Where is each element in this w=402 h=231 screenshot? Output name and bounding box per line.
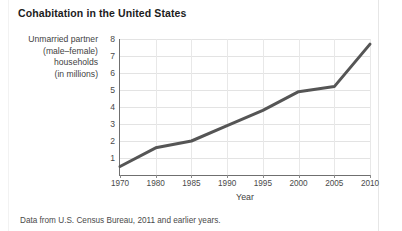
page-edge-left [8, 0, 9, 231]
x-tick-mark [334, 175, 335, 178]
x-tick-label: 1990 [207, 179, 247, 188]
y-axis-label-line-1: Unmarried partner [14, 34, 98, 46]
y-axis-label-line-3: households [14, 57, 98, 69]
data-line-series [120, 39, 370, 175]
y-axis-label-line-2: (male–female) [14, 46, 98, 58]
y-tick-label: 3 [101, 119, 115, 129]
y-axis-label: Unmarried partner (male–female) househol… [14, 34, 98, 80]
x-tick-mark [156, 175, 157, 178]
x-tick-label: 1985 [171, 179, 211, 188]
x-tick-label: 2005 [314, 179, 354, 188]
x-tick-mark [263, 175, 264, 178]
y-tick-label: 8 [101, 34, 115, 44]
x-tick-label: 2000 [279, 179, 319, 188]
x-tick-mark [120, 175, 121, 178]
x-tick-label: 1970 [100, 179, 140, 188]
x-tick-mark [299, 175, 300, 178]
y-tick-label: 2 [101, 136, 115, 146]
x-tick-label: 1980 [136, 179, 176, 188]
page-edge-right [378, 0, 379, 231]
chart-title: Cohabitation in the United States [18, 7, 186, 19]
x-gridline [370, 39, 371, 175]
x-axis-label: Year [120, 192, 370, 202]
y-tick-label: 5 [101, 85, 115, 95]
x-tick-mark [191, 175, 192, 178]
y-tick-label: 7 [101, 51, 115, 61]
chart-footnote: Data from U.S. Census Bureau, 2011 and e… [20, 216, 221, 225]
y-tick-label: 4 [101, 102, 115, 112]
x-tick-label: 2010 [350, 179, 390, 188]
x-tick-mark [227, 175, 228, 178]
y-tick-label: 1 [101, 153, 115, 163]
x-tick-mark [370, 175, 371, 178]
y-axis-label-line-4: (in millions) [14, 69, 98, 81]
chart-figure: Cohabitation in the United States Unmarr… [0, 0, 402, 231]
x-tick-label: 1995 [243, 179, 283, 188]
y-tick-label: 6 [101, 68, 115, 78]
